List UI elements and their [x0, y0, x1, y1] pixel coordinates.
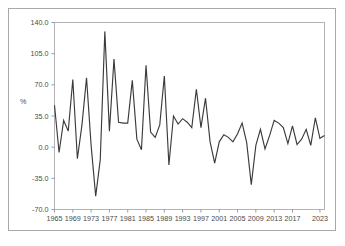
- y-axis-title: %: [20, 97, 27, 106]
- y-tick-label: -70.0: [32, 205, 48, 214]
- x-tick-label: 1973: [83, 214, 99, 223]
- x-tick-label: 2005: [230, 214, 246, 223]
- screenshot-root: 140.0105.070.035.00.0-35.0-70.0 19651969…: [0, 0, 345, 246]
- line-chart-svg: 140.0105.070.035.00.0-35.0-70.0 19651969…: [0, 0, 345, 246]
- x-tick-label: 2023: [312, 214, 328, 223]
- y-tick-label: 140.0: [31, 18, 49, 27]
- x-axis-ticks: 1965196919731977198119851989199319972001…: [47, 210, 328, 224]
- y-axis-ticks: 140.0105.070.035.00.0-35.0-70.0: [31, 18, 55, 214]
- x-tick-label: 1965: [47, 214, 63, 223]
- x-tick-label: 1977: [101, 214, 117, 223]
- y-tick-label: 70.0: [35, 80, 49, 89]
- x-tick-label: 2001: [211, 214, 227, 223]
- y-tick-label: 105.0: [31, 49, 49, 58]
- x-tick-label: 1993: [175, 214, 191, 223]
- x-tick-label: 1969: [65, 214, 81, 223]
- y-tick-label: -35.0: [32, 174, 48, 183]
- y-tick-label: 35.0: [35, 112, 49, 121]
- x-tick-label: 1981: [120, 214, 136, 223]
- x-tick-label: 1997: [193, 214, 209, 223]
- series-line-annual-change: [55, 31, 325, 196]
- x-tick-label: 2017: [284, 214, 300, 223]
- y-tick-label: 0.0: [39, 143, 49, 152]
- chart-figure: 140.0105.070.035.00.0-35.0-70.0 19651969…: [0, 0, 345, 246]
- x-tick-label: 2009: [248, 214, 264, 223]
- x-tick-label: 1985: [138, 214, 154, 223]
- plot-area-border: [55, 23, 325, 210]
- x-tick-label: 2013: [266, 214, 282, 223]
- x-tick-label: 1989: [156, 214, 172, 223]
- data-series-group: [55, 31, 325, 196]
